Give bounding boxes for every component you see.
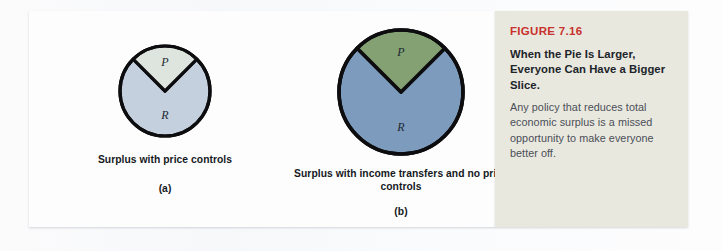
pie-chart-a-panel-letter: (a): [75, 183, 255, 194]
pie-chart-a-graphic: RP: [115, 41, 215, 141]
pie-slice-label-p: P: [160, 55, 169, 69]
figure-caption-body: Any policy that reduces total economic s…: [510, 100, 673, 160]
figure-caption-title: When the Pie Is Larger, Everyone Can Hav…: [510, 47, 673, 94]
pie-chart-b-panel-letter: (b): [291, 206, 511, 217]
figure-caption-panel: FIGURE 7.16 When the Pie Is Larger, Ever…: [495, 11, 688, 227]
figure-panel: RP Surplus with price controls (a) RP Su…: [29, 11, 495, 227]
pie-chart-a-title: Surplus with price controls: [75, 153, 255, 166]
pie-slice-label-r: R: [396, 120, 405, 134]
pie-chart-b: RP Surplus with income transfers and no …: [291, 25, 511, 217]
figure-number-label: FIGURE 7.16: [510, 25, 673, 38]
pie-chart-b-title: Surplus with income transfers and no pri…: [291, 167, 511, 194]
pie-chart-b-graphic: RP: [334, 25, 468, 159]
pie-chart-a: RP Surplus with price controls (a): [75, 41, 255, 194]
page-background: RP Surplus with price controls (a) RP Su…: [0, 0, 722, 251]
pie-slice-label-r: R: [160, 108, 169, 122]
pie-slice-label-p: P: [396, 45, 405, 59]
